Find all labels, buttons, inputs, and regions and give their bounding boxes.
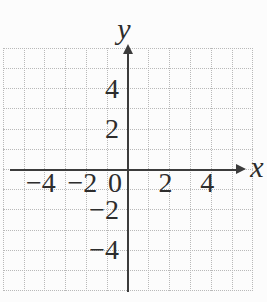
y-tick-label: 4 — [105, 75, 119, 103]
x-tick-label: 2 — [159, 169, 173, 197]
x-tick-label: −2 — [67, 169, 97, 197]
coordinate-plane: −4−202442−2−4 x y — [0, 0, 267, 302]
y-tick-label: 2 — [105, 115, 119, 143]
y-tick-label: −2 — [89, 196, 119, 224]
x-tick-label: −4 — [26, 169, 56, 197]
x-tick-label: 4 — [200, 169, 214, 197]
x-axis-arrowhead — [236, 164, 246, 174]
y-axis-arrowhead — [123, 44, 133, 54]
y-axis-line — [127, 53, 129, 292]
x-tick-label: 0 — [108, 169, 122, 197]
x-axis-label: x — [250, 152, 263, 182]
y-tick-label: −4 — [89, 236, 119, 264]
y-axis-label: y — [117, 14, 130, 44]
